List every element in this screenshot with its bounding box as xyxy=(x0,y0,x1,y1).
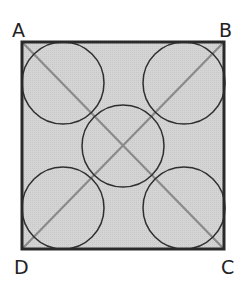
vertex-label-d: D xyxy=(14,258,29,277)
square-diagram xyxy=(0,0,244,281)
vertex-label-c: C xyxy=(221,258,234,277)
vertex-label-a: A xyxy=(12,21,25,40)
vertex-label-b: B xyxy=(219,21,232,40)
